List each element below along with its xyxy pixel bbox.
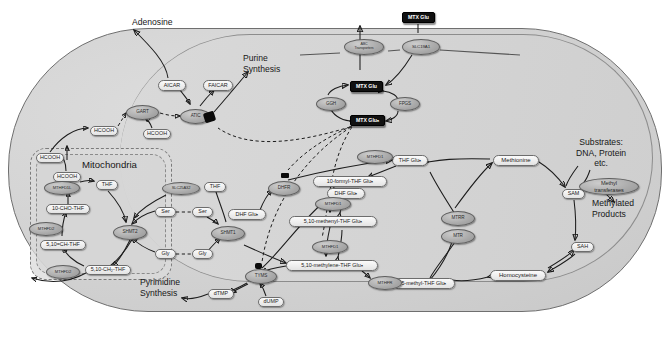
- pathway-diagram: Adenosine Purine Synthesis Mitochondria …: [0, 0, 670, 338]
- annotation-methylated-products: Methylated Products: [592, 198, 634, 219]
- annotation-substrates: Substrates: DNA, Protein etc.: [576, 137, 626, 169]
- enzyme-tyms[interactable]: TYMS: [245, 269, 277, 284]
- enzyme-mthfd1-lower[interactable]: MTHFD1: [312, 240, 348, 254]
- annotation-purine-synthesis: Purine Synthesis: [243, 53, 280, 74]
- annotation-pyrimidine-synthesis: Pyrimidine Synthesis: [140, 277, 180, 298]
- metabolite-faicar[interactable]: FAICAR: [203, 80, 233, 91]
- enzyme-shmt2[interactable]: SHMT2: [113, 225, 147, 240]
- metabolite-thf-glun[interactable]: THF Gluₙ: [392, 155, 428, 166]
- transporter-slc19a1[interactable]: SLC19A1: [402, 39, 440, 55]
- metabolite-5-10-methylene-thf-glun[interactable]: 5,10-methylene-THF Gluₙ: [286, 260, 378, 271]
- drug-mtx-glu-extracellular[interactable]: MTX Glu: [402, 12, 435, 23]
- enzyme-gart[interactable]: GART: [126, 105, 159, 120]
- drug-mtx-glun-polyglutamate[interactable]: MTX Gluₙ: [350, 115, 385, 126]
- metabolite-hcooh-mito-edge[interactable]: HCOOH: [36, 153, 64, 163]
- inhibition-marker-tyms: [255, 263, 262, 269]
- metabolite-dtmp[interactable]: dTMP: [208, 289, 234, 299]
- enzyme-mthfd2-upper[interactable]: MTHFD2: [29, 222, 63, 236]
- metabolite-serine-mitochondrial[interactable]: Ser: [155, 207, 176, 217]
- metabolite-5-methyl-thf-glun[interactable]: 5-methyl-THF Gluₙ: [393, 278, 455, 289]
- metabolite-glycine-mitochondrial[interactable]: Gly: [155, 249, 176, 259]
- metabolite-5-10-methenyl-thf-mito[interactable]: 5,10=CH-THF: [40, 240, 86, 250]
- inhibition-marker-dhfr: [281, 173, 289, 178]
- metabolite-10-formyl-thf-glun[interactable]: 10-formyl-THF Gluₙ: [313, 176, 387, 187]
- transporter-abc[interactable]: ABC Transporters: [344, 39, 384, 55]
- transporter-slc25a32[interactable]: SLC25A32: [162, 182, 200, 195]
- enzyme-mthfd1l[interactable]: MTHFD1L: [44, 181, 80, 195]
- annotation-adenosine: Adenosine: [132, 17, 173, 28]
- metabolite-homocysteine[interactable]: Homocysteine: [490, 270, 546, 281]
- metabolite-10-cho-thf[interactable]: 10-CHO-THF: [46, 204, 90, 214]
- enzyme-mtr[interactable]: MTR: [441, 229, 475, 244]
- enzyme-mthfd2-lower[interactable]: MTHFD2: [46, 265, 80, 279]
- metabolite-dhf-glun-left[interactable]: DHF Gluₙ: [228, 209, 266, 220]
- metabolite-glycine-cytosolic[interactable]: Gly: [192, 249, 213, 259]
- metabolite-aicar[interactable]: AICAR: [158, 80, 186, 91]
- enzyme-mthfr[interactable]: MTHFR: [368, 276, 402, 290]
- annotation-mitochondria: Mitochondria: [82, 160, 137, 171]
- metabolite-serine-cytosolic[interactable]: Ser: [192, 207, 213, 217]
- metabolite-hcooh-gart[interactable]: HCOOH: [143, 129, 171, 139]
- metabolite-sah[interactable]: SAH: [571, 242, 594, 252]
- metabolite-5-10-methylene-thf-mito[interactable]: 5,10-CH₂-THF: [85, 265, 131, 275]
- enzyme-methyl-transferases[interactable]: Methyl transferases: [579, 178, 639, 195]
- enzyme-fpgs[interactable]: FPGS: [390, 97, 420, 111]
- enzyme-shmt1[interactable]: SHMT1: [211, 226, 245, 241]
- metabolite-thf-cytosolic[interactable]: THF: [204, 182, 226, 192]
- metabolite-hcooh-cytosolic-left[interactable]: HCOOH: [90, 126, 118, 136]
- enzyme-mthfd1-top[interactable]: MTHFD1: [357, 150, 393, 164]
- enzyme-ggh[interactable]: GGH: [316, 97, 346, 111]
- enzyme-dhfr[interactable]: DHFR: [268, 181, 300, 196]
- metabolite-dump[interactable]: dUMP: [258, 297, 284, 307]
- metabolite-thf-mitochondrial[interactable]: THF: [96, 180, 118, 190]
- enzyme-mthfd1-middle[interactable]: MTHFD1: [315, 197, 351, 211]
- enzyme-mtrr[interactable]: MTRR: [441, 211, 475, 226]
- metabolite-methionine[interactable]: Methionine: [493, 155, 539, 166]
- metabolite-5-10-methenyl-thf-glun[interactable]: 5,10-methenyl-THF Gluₙ: [289, 216, 377, 227]
- drug-mtx-glu-cytosolic[interactable]: MTX Glu: [350, 81, 383, 92]
